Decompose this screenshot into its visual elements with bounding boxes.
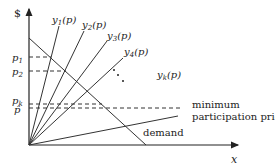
y-axis-label: $ xyxy=(14,7,21,20)
ellipsis-dot xyxy=(117,74,119,76)
supply-label-y4: y4(p) xyxy=(123,46,148,59)
min-participation-label-line1: minimum xyxy=(192,99,240,110)
phat-label: p̂ xyxy=(14,104,21,115)
supply-curve-y2 xyxy=(29,31,84,145)
x-axis-label: x xyxy=(231,153,238,166)
supply-label-yk: yk(p) xyxy=(156,69,181,82)
p1-label: p1 xyxy=(12,52,23,65)
supply-label-y1: y1(p) xyxy=(51,14,76,27)
supply-curve-y3 xyxy=(29,41,107,145)
min-participation-label-line2: participation price xyxy=(192,111,275,122)
demand-label: demand xyxy=(143,127,184,138)
supply-curve-y1 xyxy=(29,26,59,145)
p2-label: p2 xyxy=(12,66,23,79)
supply-demand-diagram: $ x demand y1(p) y2(p) y3(p) y4(p) yk(p)… xyxy=(0,0,275,168)
ellipsis-dot xyxy=(113,69,115,71)
supply-label-y3: y3(p) xyxy=(106,30,131,43)
supply-label-y2: y2(p) xyxy=(81,19,106,32)
ellipsis-dot xyxy=(122,80,124,82)
